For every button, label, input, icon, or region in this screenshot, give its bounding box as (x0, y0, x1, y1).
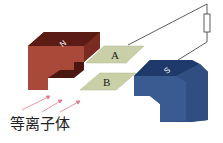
s-magnet: S (134, 60, 208, 122)
plate-b: B (80, 73, 136, 90)
circuit-wires (128, 4, 207, 60)
resistor-icon (204, 14, 210, 32)
plasma-flow-arrows (22, 96, 80, 112)
svg-text:A: A (111, 49, 119, 61)
plasma-label: 等离子体 (10, 112, 70, 133)
svg-text:B: B (103, 76, 110, 88)
